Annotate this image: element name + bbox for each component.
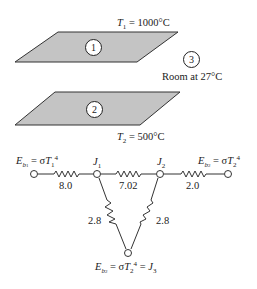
resistance-j2-j3: 2.8	[156, 216, 169, 227]
t2-sub: 2	[123, 137, 127, 145]
plate-2-marker: 2	[86, 101, 103, 118]
node-j2	[157, 171, 164, 178]
node-j1	[94, 171, 101, 178]
node-j2-label: J2	[157, 157, 165, 168]
resistor-2-0	[181, 171, 206, 177]
eb2-tsub: 2	[233, 161, 237, 169]
plate-1-marker: 1	[85, 39, 102, 56]
resistance-left-j1: 8.0	[59, 181, 72, 192]
j2-sub: 2	[162, 162, 166, 170]
node-left-label: Eb1 = σT14	[16, 156, 58, 167]
resistance-j1-j2: 7.02	[119, 181, 137, 192]
node-right	[225, 171, 232, 178]
eb1-pow: 4	[55, 154, 59, 162]
eb1-tsub: 1	[51, 161, 55, 169]
j1-sub: 1	[98, 162, 102, 170]
eb3-eq: = σ	[107, 261, 124, 272]
t2-value: = 500°C	[129, 131, 165, 142]
t1-value: = 1000°C	[129, 17, 170, 28]
resistor-2-8-left	[105, 200, 116, 224]
j3-sub: 3	[153, 267, 157, 275]
resistance-j1-j3: 2.8	[88, 216, 101, 227]
resistor-2-8-right	[140, 200, 153, 224]
node-right-label: Eb2 = σT24	[198, 156, 240, 167]
eb1-eq: = σ	[28, 155, 45, 166]
node-j3	[125, 250, 132, 257]
node-left	[31, 171, 38, 178]
eb3-tsub: 2	[130, 267, 134, 275]
room-label: Room at 27°C	[162, 72, 222, 83]
resistor-7-02	[116, 171, 141, 177]
eb3-eq2: =	[137, 261, 148, 272]
node-j3-label: Eb2 = σT24 = J3	[95, 262, 156, 273]
eb2-eq: = σ	[210, 155, 227, 166]
diagram-canvas	[0, 0, 257, 289]
room-marker: 3	[183, 51, 200, 68]
eb2-pow: 4	[237, 154, 241, 162]
node-j1-label: J1	[93, 157, 101, 168]
plate-1-temperature: T1 = 1000°C	[117, 18, 170, 29]
resistor-8-0	[54, 171, 79, 177]
resistance-j2-right: 2.0	[186, 181, 199, 192]
plate-2-temperature: T2 = 500°C	[117, 132, 164, 143]
t1-sub: 1	[123, 23, 127, 31]
